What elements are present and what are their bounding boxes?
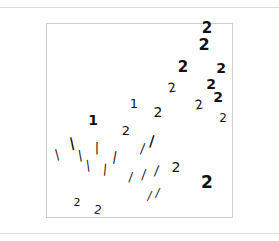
digit-marker: 2 (213, 89, 223, 105)
digit-marker: | (102, 162, 107, 176)
digit-marker: 2 (172, 159, 181, 175)
digit-marker: | (147, 133, 156, 149)
series-digit-1: 11|||||||||||||| (53, 96, 162, 202)
digit-marker: | (145, 189, 154, 202)
digit-marker: | (95, 140, 99, 155)
digit-marker: | (140, 167, 149, 182)
digit-marker: 2 (154, 104, 163, 120)
digit-marker: | (53, 147, 61, 162)
digit-marker: 1 (88, 112, 98, 128)
digit-marker: 2 (167, 79, 178, 95)
digit-marker: 2 (201, 172, 213, 192)
digit-marker: 2 (74, 196, 81, 209)
digit-embedding-scatter: 22222222222222211|||||||||||||| (0, 0, 279, 241)
digit-marker: 1 (130, 96, 138, 111)
digit-marker: | (153, 163, 162, 177)
digit-marker: 2 (219, 111, 227, 125)
digit-marker: | (112, 149, 119, 165)
digit-marker: 2 (93, 202, 103, 217)
bottom-divider (0, 233, 279, 234)
digit-marker: | (127, 170, 135, 183)
digit-marker: 2 (194, 96, 205, 112)
digit-marker: 2 (122, 123, 130, 138)
digit-marker: | (85, 158, 91, 172)
digit-marker: | (68, 135, 76, 151)
digit-marker: | (77, 148, 83, 162)
digit-marker: 2 (178, 58, 188, 76)
digit-marker: 2 (216, 60, 226, 76)
digit-marker: 2 (198, 35, 209, 54)
digit-marker: | (139, 141, 148, 155)
digit-marker: | (153, 186, 162, 199)
